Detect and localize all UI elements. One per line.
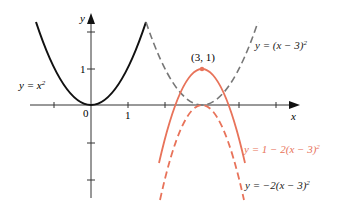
y-tick-label-1: 1 xyxy=(80,64,86,75)
curve-shifted-dashed xyxy=(146,22,258,105)
curve-reflected-dashed xyxy=(160,105,244,200)
x-tick-label-1: 1 xyxy=(125,110,131,121)
curve-reflected-raised xyxy=(159,69,245,163)
label-shifted: y = (x − 3)2 xyxy=(255,40,307,51)
x-axis-label: x xyxy=(291,111,296,122)
label-reflected-raised: y = 1 − 2(x − 3)2 xyxy=(244,144,320,155)
label-reflected: y = −2(x − 3)2 xyxy=(245,180,310,191)
x-axis xyxy=(30,101,300,109)
y-axis-label: y xyxy=(80,13,85,24)
parabola-transformations-diagram: y x 1 0 1 (3, 1) y = x2 y = (x − 3)2 y =… xyxy=(0,0,342,209)
label-y-equals-x-squared: y = x2 xyxy=(19,80,45,91)
x-tick-label-0: 0 xyxy=(83,108,89,119)
vertex-point xyxy=(200,67,204,71)
vertex-label: (3, 1) xyxy=(191,52,215,63)
graph-canvas xyxy=(0,0,342,209)
